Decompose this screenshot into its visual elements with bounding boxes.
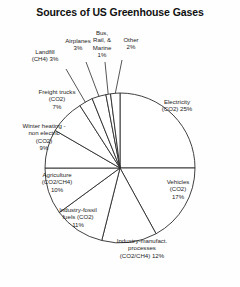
slice-label-electricity: Electricity (CO2) 25% (146, 98, 208, 113)
slice-label-industry-fossil-fuels: Industry-fossil fuels (CO2) 11% (45, 206, 111, 228)
slice-label-agriculture: Agriculture (CO2/CH4) 10% (26, 171, 88, 193)
slice-label-winter-heating: Winter heating - non electric (CO2) 9% (8, 122, 80, 152)
slice-label-other: Other 2% (116, 36, 146, 51)
leader-line-bus-rail-marine (105, 62, 108, 94)
slice-label-bus-rail-marine: Bus, Rail, & Marine 1% (88, 29, 116, 59)
slice-label-vehicles: Vehicles (CO2) 17% (150, 178, 206, 200)
leader-line-other (115, 60, 122, 93)
chart-canvas: Sources of US Greenhouse Gases Electrici… (0, 0, 240, 287)
slice-label-industry-manufact-processes: Industry-manufact. processes (CO2/CH4) 1… (100, 237, 184, 259)
slice-label-freight-trucks: Freight trucks (CO2) 7% (26, 88, 88, 110)
